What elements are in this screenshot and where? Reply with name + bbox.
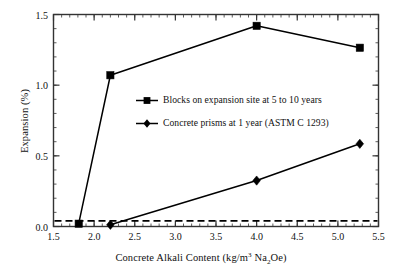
x-tick-label: 2.5 xyxy=(129,231,142,242)
y-tick-label: 0.0 xyxy=(24,221,48,232)
data-point-marker xyxy=(356,44,363,51)
series-2-diamond xyxy=(107,139,364,229)
y-tick-label: 0.5 xyxy=(24,150,48,161)
x-tick-label: 4.5 xyxy=(291,231,304,242)
legend-label-1: Blocks on expansion site at 5 to 10 year… xyxy=(163,94,322,105)
series-line xyxy=(110,144,359,225)
x-tick-label: 3.0 xyxy=(169,231,182,242)
x-tick-label: 4.0 xyxy=(250,231,263,242)
y-tick-label: 1.0 xyxy=(24,80,48,91)
chart-legend xyxy=(136,97,158,128)
x-axis-title: Concrete Alkali Content (kg/m3 Na2Oe) xyxy=(0,252,402,263)
y-axis-title-wrapper: Expansion (%) xyxy=(14,26,32,216)
x-axis-title-mid: Na xyxy=(252,252,267,263)
y-axis-title: Expansion (%) xyxy=(19,89,30,153)
chart-figure: Concrete Alkali Content (kg/m3 Na2Oe) Ex… xyxy=(0,0,402,275)
data-point-marker xyxy=(356,139,364,148)
x-tick-label: 2.0 xyxy=(88,231,101,242)
x-axis-title-pre: Concrete Alkali Content (kg/m xyxy=(115,252,248,263)
x-tick-label: 3.5 xyxy=(210,231,223,242)
legend-label-2: Concrete prisms at 1 year (ASTM C 1293) xyxy=(163,117,329,128)
data-point-marker xyxy=(253,22,260,29)
legend-marker-diamond xyxy=(143,119,150,128)
x-axis-title-post: Oe) xyxy=(271,252,287,263)
x-tick-label: 5.5 xyxy=(372,231,385,242)
x-tick-label: 1.5 xyxy=(47,231,60,242)
data-point-marker xyxy=(107,72,114,79)
legend-marker-square xyxy=(144,97,151,104)
data-point-marker xyxy=(253,176,261,185)
data-point-marker xyxy=(75,220,82,227)
x-tick-label: 5.0 xyxy=(332,231,345,242)
y-tick-label: 1.5 xyxy=(24,9,48,20)
